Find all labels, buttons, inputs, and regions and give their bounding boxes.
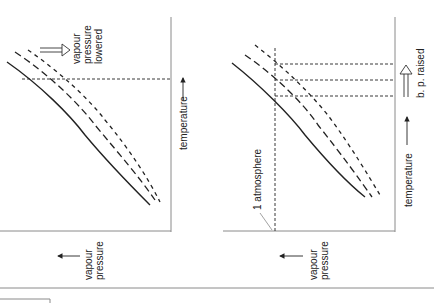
right-pressure-label-group: vapour pressure xyxy=(280,241,330,280)
right-atmosphere-leader xyxy=(260,213,272,230)
right-pressure-label-line2: pressure xyxy=(319,241,330,280)
left-curve-solid xyxy=(7,62,150,205)
right-curve-dashed xyxy=(245,55,372,197)
left-pressure-label-line1: vapour xyxy=(83,249,94,280)
left-temperature-label-group: temperature xyxy=(178,78,189,150)
right-atmosphere-label-group: 1 atmosphere xyxy=(252,148,272,230)
left-annotation-line2: pressure xyxy=(82,25,93,64)
left-annotation: vapour pressure lowered xyxy=(71,25,104,64)
left-temperature-label: temperature xyxy=(178,96,189,150)
left-pressure-label-group: vapour pressure xyxy=(58,241,105,280)
left-annotation-line3: lowered xyxy=(93,29,104,64)
right-bp-raised-label: b. p. raised xyxy=(415,49,426,98)
right-temperature-label: temperature xyxy=(403,153,414,207)
right-temperature-label-group: temperature xyxy=(403,117,414,207)
right-hollow-arrow-icon xyxy=(400,65,412,97)
right-curve-short-dashed xyxy=(255,45,380,195)
right-pressure-label-line1: vapour xyxy=(308,249,319,280)
diagram-canvas: vapour pressure lowered temperature vapo… xyxy=(0,0,434,303)
left-pressure-label-line2: pressure xyxy=(94,241,105,280)
left-curve-dashed xyxy=(15,52,155,200)
left-hollow-arrow-icon xyxy=(40,44,70,56)
right-atmosphere-label: 1 atmosphere xyxy=(252,148,263,210)
right-panel: b. p. raised temperature 1 atmosphere va… xyxy=(223,17,426,280)
left-panel: vapour pressure lowered temperature vapo… xyxy=(0,17,189,280)
left-annotation-line1: vapour xyxy=(71,33,82,64)
